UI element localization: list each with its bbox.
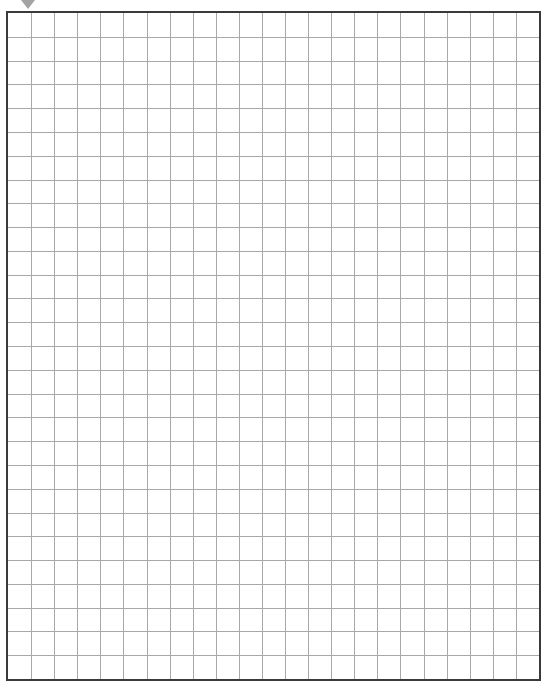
grid-line-horizontal	[8, 536, 539, 537]
grid-line-horizontal	[8, 394, 539, 395]
grid-frame	[6, 11, 541, 681]
grid-line-horizontal	[8, 61, 539, 62]
grid-line-horizontal	[8, 370, 539, 371]
grid-line-horizontal	[8, 322, 539, 323]
grid-line-horizontal	[8, 584, 539, 585]
grid-line-horizontal	[8, 275, 539, 276]
grid-line-horizontal	[8, 84, 539, 85]
grid-line-horizontal	[8, 37, 539, 38]
grid-line-horizontal	[8, 417, 539, 418]
grid-line-horizontal	[8, 108, 539, 109]
grid-line-horizontal	[8, 465, 539, 466]
grid-line-horizontal	[8, 132, 539, 133]
grid-line-horizontal	[8, 227, 539, 228]
grid-line-horizontal	[8, 180, 539, 181]
grid-line-horizontal	[8, 298, 539, 299]
grid-line-horizontal	[8, 608, 539, 609]
grid-line-horizontal	[8, 251, 539, 252]
grid-line-horizontal	[8, 441, 539, 442]
grid-line-horizontal	[8, 156, 539, 157]
grid-line-horizontal	[8, 560, 539, 561]
grid-line-horizontal	[8, 203, 539, 204]
grid-line-horizontal	[8, 489, 539, 490]
grid-line-horizontal	[8, 655, 539, 656]
grid-line-horizontal	[8, 631, 539, 632]
corner-fold-triangle-icon	[21, 0, 35, 9]
grid-line-horizontal	[8, 346, 539, 347]
graph-paper-sheet	[0, 0, 546, 689]
grid-line-horizontal	[8, 513, 539, 514]
